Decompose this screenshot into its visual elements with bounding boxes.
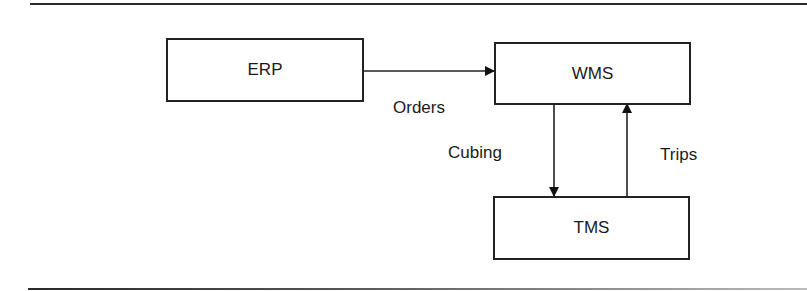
erp-label: ERP [248,60,283,80]
trips-edge-label: Trips [660,145,697,165]
wms-node: WMS [494,42,691,105]
tms-label: TMS [574,218,610,238]
cubing-edge-label: Cubing [448,143,502,163]
tms-node: TMS [493,196,690,260]
orders-edge-label: Orders [393,98,445,118]
wms-label: WMS [572,64,614,84]
erp-node: ERP [166,38,364,102]
